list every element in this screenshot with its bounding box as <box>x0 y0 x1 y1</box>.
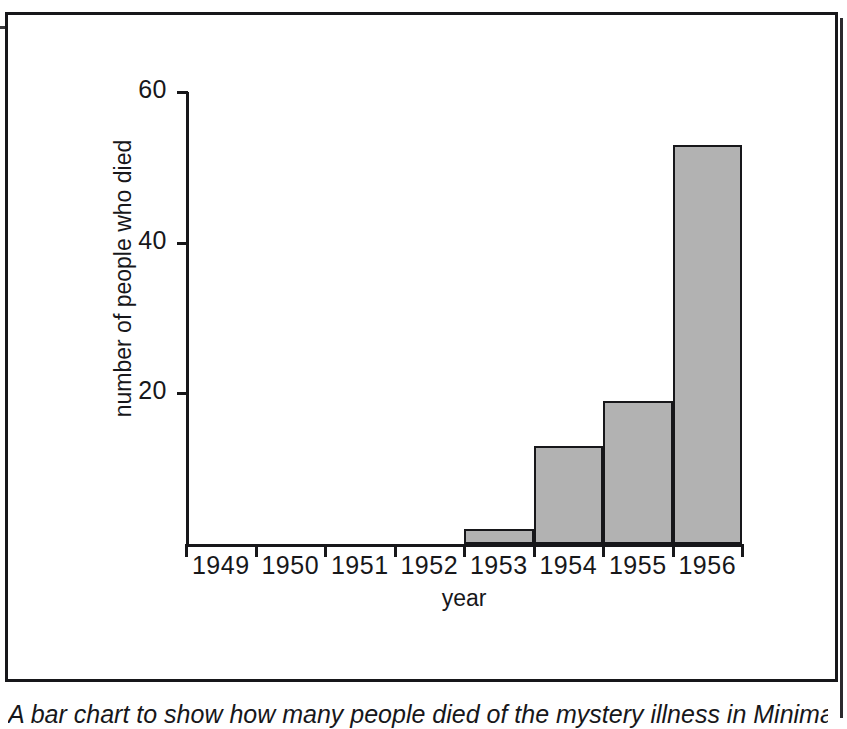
frame-edge-shadow-right <box>840 18 843 718</box>
figure-caption: A bar chart to show how many people died… <box>8 700 828 729</box>
figure-frame <box>5 12 838 682</box>
